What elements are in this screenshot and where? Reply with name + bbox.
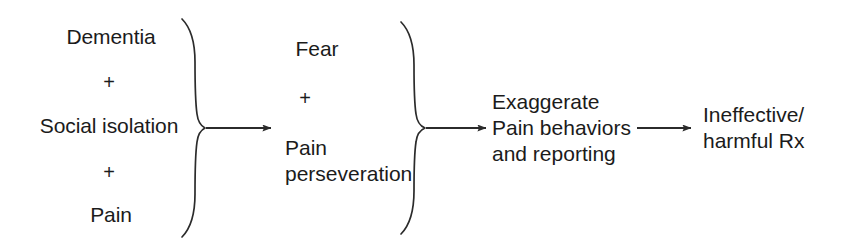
left-brace-mediators [401, 22, 425, 234]
connector-layer [0, 0, 845, 246]
flow-diagram: Dementia + Social isolation + Pain Fear … [0, 0, 845, 246]
left-brace-inputs [182, 19, 205, 237]
